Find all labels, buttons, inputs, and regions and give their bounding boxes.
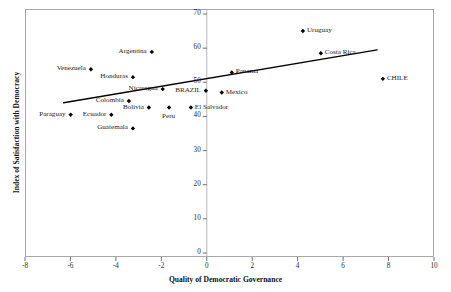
x-tick-label: 10 <box>430 263 437 270</box>
scatter-chart-figure: -8-6-4-20246810 010203040506070 Argentin… <box>0 0 451 292</box>
data-point-label: Colombia <box>96 98 124 105</box>
x-tick-label: 8 <box>387 263 391 270</box>
y-tick-label: 20 <box>194 181 201 188</box>
y-tick-label: 40 <box>194 113 201 120</box>
data-point-label: Venezuela <box>57 66 86 73</box>
data-point-label: Panama <box>236 69 258 76</box>
y-tick-label: 60 <box>194 45 201 52</box>
data-point-label: Paraguay <box>39 111 65 118</box>
data-point-label: Peru <box>162 113 175 120</box>
data-point-label: Costa Rica <box>325 50 356 57</box>
y-tick-label: 0 <box>197 249 201 256</box>
x-tick-label: -4 <box>113 263 119 270</box>
data-point-label: CHILE <box>387 75 408 82</box>
data-point-label: Mexico <box>226 89 248 96</box>
x-axis-ticks <box>25 257 434 261</box>
data-point-label: Nicaragua <box>129 86 158 93</box>
x-axis-title: Quality of Democratic Governance <box>0 275 451 284</box>
x-tick-label: 6 <box>341 263 345 270</box>
data-point-label: Bolivia <box>123 104 144 111</box>
data-point-label: Argentina <box>119 48 147 55</box>
y-tick-label: 50 <box>194 79 201 86</box>
data-point-label: Ecuador <box>83 111 107 118</box>
x-tick-label: -6 <box>67 263 73 270</box>
y-tick-label: 10 <box>194 215 201 222</box>
y-axis-title: Index of Satisfaction with Democracy <box>12 43 21 223</box>
x-tick-label: -2 <box>158 263 164 270</box>
plot-frame <box>25 9 434 257</box>
data-point-label: Honduras <box>100 74 128 81</box>
x-tick-label: -8 <box>22 263 28 270</box>
x-tick-label: 2 <box>250 263 254 270</box>
y-tick-label: 70 <box>194 10 201 17</box>
data-point-label: El Salvador <box>195 104 228 111</box>
data-point-label: Uruguay <box>307 28 332 35</box>
data-point-label: Guatemala <box>97 125 128 132</box>
x-tick-label: 0 <box>205 263 209 270</box>
x-tick-label: 4 <box>296 263 300 270</box>
data-point-label: BRAZIL <box>175 87 201 94</box>
y-tick-label: 30 <box>194 147 201 154</box>
